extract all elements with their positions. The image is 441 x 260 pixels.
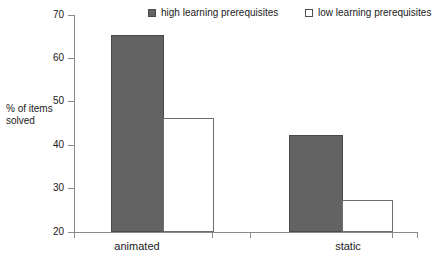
x-category-label-static: static <box>335 240 361 253</box>
y-tick-label: 70 <box>53 9 64 20</box>
x-tick-end <box>417 233 418 238</box>
bar-static-high <box>289 135 343 232</box>
plot-area <box>74 15 417 232</box>
x-axis-line <box>74 232 418 233</box>
bar-animated-low <box>163 118 214 232</box>
y-tick-label: 50 <box>53 95 64 106</box>
bar-static-low <box>342 200 393 232</box>
y-tick-label: 30 <box>53 182 64 193</box>
x-category-label-animated: animated <box>114 240 159 253</box>
x-tick-static-start <box>250 233 251 238</box>
x-tick-start <box>74 233 75 238</box>
y-tick-label: 20 <box>53 226 64 237</box>
x-tick-static-end <box>392 233 393 238</box>
y-axis-title: % of items solved <box>6 103 68 127</box>
x-tick-animated-end <box>212 233 213 238</box>
y-axis-title-line2: solved <box>6 115 68 127</box>
bar-animated-high <box>111 35 164 232</box>
y-tick-label: 60 <box>53 52 64 63</box>
y-tick-label: 40 <box>53 139 64 150</box>
bar-chart: high learning prerequisites low learning… <box>0 0 441 260</box>
